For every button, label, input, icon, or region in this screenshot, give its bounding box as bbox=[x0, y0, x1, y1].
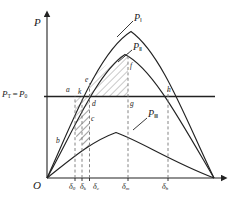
xtick-deltac-sub: c bbox=[97, 186, 99, 191]
power-angle-diagram: P O PT=P0 PⅠ PⅡ PⅢ a b c d e f g h k δ0 … bbox=[0, 0, 233, 205]
leader-p3 bbox=[133, 118, 147, 130]
point-d: d bbox=[92, 100, 96, 108]
curve-p3 bbox=[47, 133, 214, 179]
diagram-canvas bbox=[0, 0, 233, 205]
xtick-deltac: δc bbox=[93, 183, 99, 192]
origin-label: O bbox=[33, 180, 41, 191]
level-label-eq: = bbox=[12, 89, 18, 99]
xtick-deltam-sub: m bbox=[126, 186, 130, 191]
curve3-sub: Ⅲ bbox=[154, 112, 158, 119]
curve-p2 bbox=[47, 55, 214, 179]
level-label-sub-t: T bbox=[8, 93, 11, 99]
point-g: g bbox=[130, 100, 134, 108]
level-label-sub-0: 0 bbox=[25, 93, 28, 99]
xtick-deltah: δh bbox=[162, 183, 168, 192]
point-k: k bbox=[78, 88, 81, 96]
point-b: b bbox=[56, 137, 60, 145]
xtick-deltah-sub: h bbox=[166, 186, 168, 191]
curve1-sub: Ⅰ bbox=[140, 16, 142, 23]
curve-label-p3: PⅢ bbox=[148, 109, 158, 120]
point-f: f bbox=[130, 62, 132, 70]
curve-label-p2: PⅡ bbox=[133, 42, 142, 53]
xtick-deltak-sub: k bbox=[84, 186, 86, 191]
leader-p1 bbox=[117, 21, 133, 37]
point-c: c bbox=[91, 115, 94, 123]
xtick-deltak: δk bbox=[80, 183, 86, 192]
point-h: h bbox=[167, 86, 171, 94]
curve2-sub: Ⅱ bbox=[139, 45, 142, 52]
level-line-label: PT=P0 bbox=[2, 90, 27, 100]
point-a: a bbox=[66, 86, 70, 94]
xtick-delta0: δ0 bbox=[69, 183, 75, 192]
curve-label-p1: PⅠ bbox=[134, 13, 142, 24]
y-axis-label: P bbox=[34, 17, 41, 28]
xtick-deltam: δm bbox=[122, 183, 129, 192]
xtick-delta0-sub: 0 bbox=[73, 186, 75, 191]
point-e: e bbox=[85, 76, 88, 84]
